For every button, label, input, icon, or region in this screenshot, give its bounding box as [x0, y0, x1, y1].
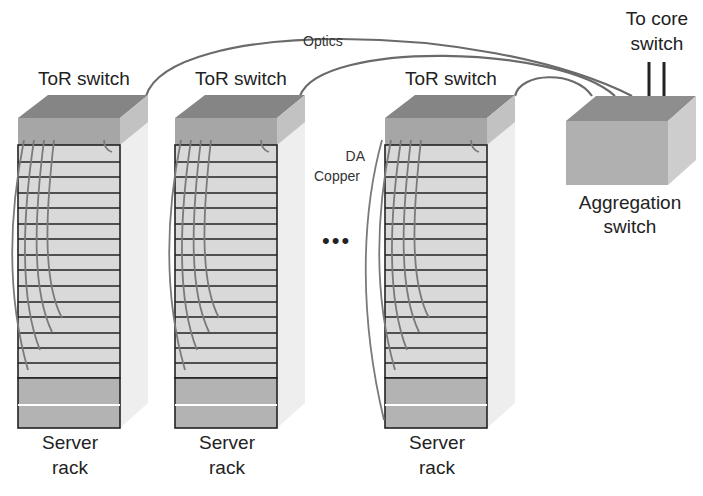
tor-switch-label-1: ToR switch [38, 68, 130, 90]
server-label-3b: rack [387, 457, 487, 479]
server-label-2b: rack [177, 457, 277, 479]
tor-switch-label-3: ToR switch [405, 68, 497, 90]
copper-label: Copper [314, 168, 360, 184]
ellipsis-more-racks: ••• [322, 228, 351, 254]
server-label-1b: rack [20, 457, 120, 479]
core-uplinks [649, 62, 664, 98]
aggregation-label-1: Aggregation [560, 192, 700, 214]
server-label-2a: Server [177, 432, 277, 454]
to-core-label-1: To core [622, 8, 692, 30]
da-label: DA [343, 148, 365, 164]
tor-switch-label-2: ToR switch [195, 68, 287, 90]
server-rack-3 [379, 95, 515, 428]
aggregation-label-2: switch [560, 216, 700, 238]
server-rack-2 [169, 95, 305, 428]
da-copper-cable [366, 140, 384, 420]
to-core-label-2: switch [622, 33, 692, 55]
server-label-3a: Server [387, 432, 487, 454]
aggregation-switch-box [566, 96, 696, 185]
optics-label: Optics [303, 33, 343, 49]
server-label-1a: Server [20, 432, 120, 454]
server-rack-1 [12, 95, 148, 428]
